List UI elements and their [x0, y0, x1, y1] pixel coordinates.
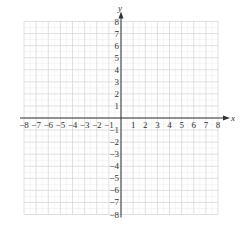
coordinate-plane: −8−7−6−5−4−3−2−11234567887654321−1−2−3−4… — [0, 0, 244, 227]
x-tick-label: −3 — [80, 120, 90, 130]
x-tick-label: −5 — [56, 120, 66, 130]
y-tick-label: −8 — [109, 210, 119, 220]
x-axis-arrow-icon — [223, 116, 230, 121]
x-tick-label: −2 — [92, 120, 102, 130]
y-tick-label: −7 — [109, 197, 119, 207]
y-axis-label: y — [117, 3, 122, 13]
x-tick-label: −7 — [31, 120, 41, 130]
x-tick-label: −6 — [43, 120, 53, 130]
x-tick-label: 7 — [204, 120, 209, 130]
x-tick-label: 4 — [167, 120, 172, 130]
y-tick-label: 8 — [115, 17, 120, 27]
y-tick-label: 7 — [115, 29, 120, 39]
y-tick-label: 2 — [115, 89, 120, 99]
axes — [20, 12, 230, 218]
x-tick-label: 2 — [143, 120, 148, 130]
y-tick-label: −1 — [109, 125, 119, 135]
x-tick-label: −4 — [68, 120, 78, 130]
y-tick-label: −5 — [109, 173, 119, 183]
y-tick-label: −2 — [109, 137, 119, 147]
x-tick-label: 6 — [192, 120, 197, 130]
x-tick-label: 8 — [216, 120, 221, 130]
x-axis-label: x — [230, 113, 235, 123]
y-tick-label: 3 — [115, 77, 120, 87]
y-tick-label: 5 — [115, 53, 120, 63]
x-tick-label: 3 — [155, 120, 160, 130]
y-tick-label: 4 — [115, 65, 120, 75]
x-tick-label: 1 — [131, 120, 136, 130]
y-axis-arrow-icon — [119, 12, 124, 19]
y-tick-label: 1 — [115, 101, 120, 111]
x-tick-label: −8 — [19, 120, 29, 130]
y-tick-label: −3 — [109, 149, 119, 159]
y-tick-label: 6 — [115, 41, 120, 51]
y-tick-label: −6 — [109, 185, 119, 195]
y-tick-label: −4 — [109, 161, 119, 171]
x-tick-label: 5 — [179, 120, 184, 130]
